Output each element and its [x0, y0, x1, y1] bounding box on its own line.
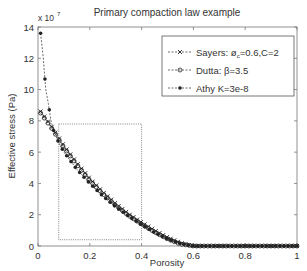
y-tick-label: 4 — [29, 178, 34, 189]
svg-text:Athy K=3e-8: Athy K=3e-8 — [196, 83, 249, 94]
x-tick-label: 1 — [294, 250, 299, 261]
svg-text:Dutta: β=3.5: Dutta: β=3.5 — [196, 65, 248, 76]
x-tick-label: 0.8 — [239, 250, 252, 261]
y-tick-label: 14 — [23, 22, 34, 33]
x-tick-label: 0 — [35, 250, 40, 261]
x-tick-label: 0.2 — [83, 250, 96, 261]
y-axis-label: Effective stress (Pa) — [6, 94, 17, 179]
chart-title: Primary compaction law example — [94, 7, 241, 18]
compaction-chart: Primary compaction law example x 10 7 02… — [0, 0, 307, 271]
x-tick-label: 0.6 — [187, 250, 200, 261]
x-tick-label: 0.4 — [135, 250, 148, 261]
y-tick-label: 2 — [29, 209, 34, 220]
y-tick-label: 6 — [29, 147, 34, 158]
y-scale-label: x 10 7 — [38, 11, 61, 23]
x-axis-label: Porosity — [150, 257, 185, 268]
y-tick-label: 0 — [29, 241, 34, 252]
y-tick-label: 10 — [23, 84, 34, 95]
y-tick-label: 12 — [23, 53, 34, 64]
svg-text:x 10: x 10 — [38, 13, 54, 23]
y-tick-label: 8 — [29, 115, 34, 126]
legend: Sayers: øc=0.6,C=2Dutta: β=3.5Athy K=3e-… — [162, 36, 294, 96]
svg-text:7: 7 — [57, 11, 61, 17]
